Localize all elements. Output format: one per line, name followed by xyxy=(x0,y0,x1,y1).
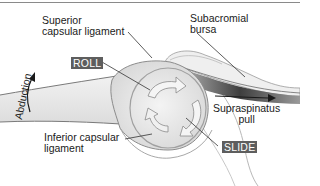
label-line: capsular ligament xyxy=(42,26,124,37)
label-line: pull xyxy=(213,114,280,125)
label-line: ligament xyxy=(44,143,119,154)
roll-tag: ROLL xyxy=(71,57,103,69)
slide-tag: SLIDE xyxy=(222,141,257,153)
subacromial-bursa-label: Subacromial bursa xyxy=(190,13,248,35)
supraspinatus-pull-label: Supraspinatus pull xyxy=(213,103,280,125)
superior-capsular-ligament-label: Superior capsular ligament xyxy=(42,15,124,37)
label-line: bursa xyxy=(190,24,248,35)
inferior-capsular-ligament-label: Inferior capsular ligament xyxy=(44,132,119,154)
